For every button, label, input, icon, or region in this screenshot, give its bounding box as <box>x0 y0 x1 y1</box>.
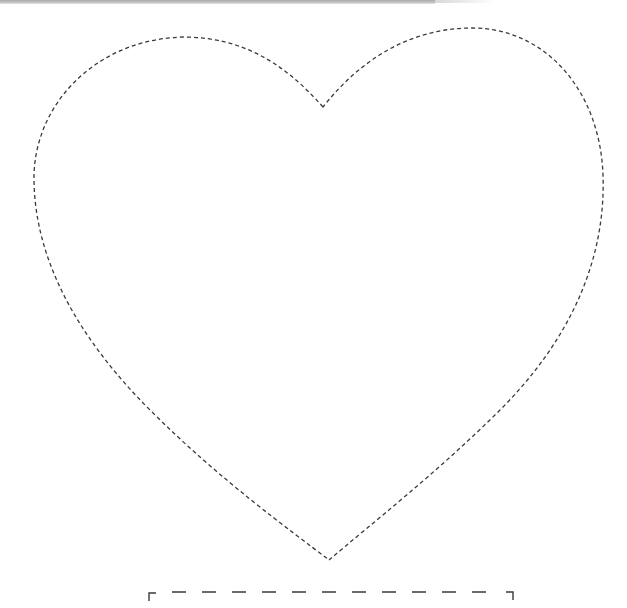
heart-outline-icon <box>34 28 603 560</box>
template-canvas <box>0 0 627 608</box>
bracket-left-corner-icon <box>149 593 156 601</box>
cut-bracket <box>149 592 513 601</box>
bracket-right-corner-icon <box>506 592 513 600</box>
